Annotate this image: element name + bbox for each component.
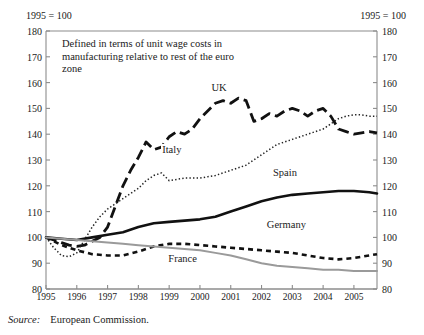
series-line-italy <box>46 115 377 257</box>
source-line: Source:European Commission. <box>8 314 149 325</box>
x-tick-label: 1998 <box>129 292 148 302</box>
plot-area <box>0 0 424 335</box>
x-tick-label: 1997 <box>98 292 117 302</box>
y-tick-label-right: 150 <box>382 103 410 114</box>
x-tick-label: 1999 <box>160 292 179 302</box>
y-axis-right: 8090100110120130140150160170180 <box>382 0 416 335</box>
series-line-uk <box>46 98 377 246</box>
y-tick-label-left: 160 <box>16 77 42 88</box>
x-tick-label: 2004 <box>314 292 333 302</box>
x-tick-label: 1995 <box>37 292 56 302</box>
y-tick-label-left: 100 <box>16 232 42 243</box>
source-text: European Commission. <box>50 314 149 325</box>
y-tick-label-right: 90 <box>382 258 410 269</box>
y-tick-label-left: 110 <box>16 206 42 217</box>
series-label-italy: Italy <box>161 144 182 155</box>
series-label-germany: Germany <box>266 219 307 230</box>
x-tick-label: 1996 <box>67 292 86 302</box>
series-line-spain <box>46 191 377 240</box>
y-tick-label-right: 110 <box>382 206 410 217</box>
x-tick-label: 2001 <box>221 292 240 302</box>
y-tick-label-right: 140 <box>382 129 410 140</box>
x-axis: 1995199619971998199920002001200220032004… <box>0 292 424 312</box>
y-tick-label-right: 180 <box>382 26 410 37</box>
y-tick-label-left: 180 <box>16 26 42 37</box>
y-tick-label-right: 170 <box>382 51 410 62</box>
x-tick-label: 2005 <box>344 292 363 302</box>
x-tick-label: 2003 <box>283 292 302 302</box>
y-tick-label-left: 150 <box>16 103 42 114</box>
series-label-spain: Spain <box>272 167 298 178</box>
y-tick-label-left: 140 <box>16 129 42 140</box>
y-tick-label-right: 130 <box>382 155 410 166</box>
y-tick-label-left: 130 <box>16 155 42 166</box>
series-label-uk: UK <box>210 82 227 93</box>
y-axis-left: 8090100110120130140150160170180 <box>12 0 42 335</box>
x-tick-label: 2002 <box>252 292 271 302</box>
x-tick-label: 2000 <box>190 292 209 302</box>
y-tick-label-right: 100 <box>382 232 410 243</box>
series-line-france <box>46 237 377 271</box>
y-tick-label-right: 120 <box>382 180 410 191</box>
source-label: Source: <box>8 314 40 325</box>
y-tick-label-left: 170 <box>16 51 42 62</box>
y-tick-label-left: 120 <box>16 180 42 191</box>
chart-container: 1995 = 100 1995 = 100 Defined in terms o… <box>0 0 424 335</box>
y-tick-label-left: 90 <box>16 258 42 269</box>
series-label-france: France <box>167 253 198 264</box>
y-tick-label-right: 160 <box>382 77 410 88</box>
